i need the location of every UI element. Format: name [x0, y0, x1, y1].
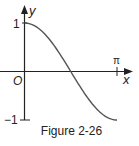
x-tick-label-pi: π — [113, 55, 120, 66]
y-axis-arrow-icon — [21, 5, 28, 14]
y-axis-label: y — [28, 3, 37, 18]
origin-label: O — [13, 74, 22, 88]
y-tick-label-1: 1 — [13, 17, 20, 31]
figure-caption: Figure 2-26 — [0, 124, 139, 138]
x-axis-label: x — [122, 72, 130, 87]
